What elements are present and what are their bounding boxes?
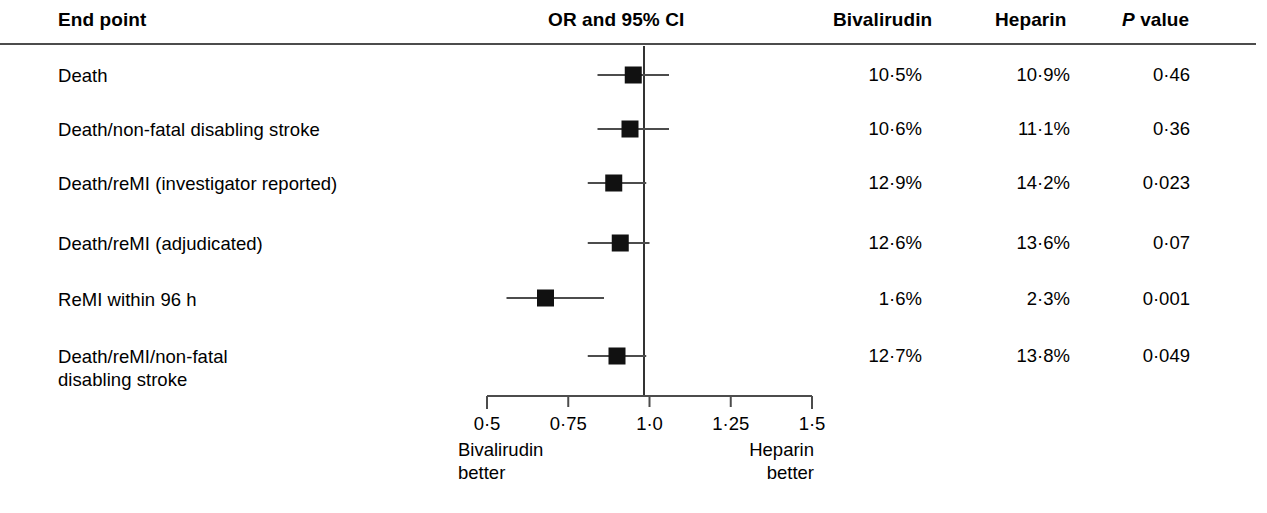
cell-bivalirudin-pct: 10·6% [800, 118, 922, 140]
cell-bivalirudin-pct: 10·5% [800, 64, 922, 86]
endpoint-label: Death/reMI/non-fatal disabling stroke [58, 345, 228, 391]
cell-heparin-pct: 14·2% [950, 172, 1070, 194]
axis-tick-label: 1·5 [777, 413, 847, 435]
endpoint-label: Death/reMI (investigator reported) [58, 172, 337, 195]
axis-tick-label: 1·0 [615, 413, 685, 435]
point-estimate-marker [537, 290, 554, 307]
cell-heparin-pct: 13·8% [950, 345, 1070, 367]
column-header-or-ci: OR and 95% CI [548, 9, 684, 31]
cell-heparin-pct: 10·9% [950, 64, 1070, 86]
cell-bivalirudin-pct: 1·6% [800, 288, 922, 310]
column-header-p-value: P value [1122, 9, 1189, 31]
column-header-bivalirudin: Bivalirudin [833, 9, 932, 31]
cell-bivalirudin-pct: 12·6% [800, 232, 922, 254]
point-estimate-marker [625, 67, 642, 84]
endpoint-label: Death [58, 64, 108, 87]
cell-p-value: 0·36 [1085, 118, 1190, 140]
p-value-italic-p: P [1122, 9, 1135, 30]
axis-annotation-heparin-better: Heparin better [690, 438, 814, 484]
endpoint-label: Death/non-fatal disabling stroke [58, 118, 320, 141]
cell-heparin-pct: 2·3% [950, 288, 1070, 310]
axis-tick-label: 1·25 [696, 413, 766, 435]
forest-plot-figure: End point OR and 95% CI Bivalirudin Hepa… [0, 0, 1267, 513]
cell-p-value: 0·001 [1085, 288, 1190, 310]
cell-p-value: 0·049 [1085, 345, 1190, 367]
axis-annotation-bivalirudin-better: Bivalirudin better [458, 438, 543, 484]
axis-tick-label: 0·75 [533, 413, 603, 435]
column-header-endpoint: End point [58, 9, 147, 31]
p-value-word: value [1135, 9, 1189, 30]
cell-p-value: 0·023 [1085, 172, 1190, 194]
cell-heparin-pct: 13·6% [950, 232, 1070, 254]
point-estimate-marker [609, 348, 626, 365]
column-header-heparin: Heparin [995, 9, 1066, 31]
point-estimate-marker [605, 175, 622, 192]
forest-plot-canvas [0, 0, 1267, 513]
cell-heparin-pct: 11·1% [950, 118, 1070, 140]
endpoint-label: ReMI within 96 h [58, 288, 197, 311]
point-estimate-marker [612, 235, 629, 252]
cell-bivalirudin-pct: 12·7% [800, 345, 922, 367]
cell-p-value: 0·07 [1085, 232, 1190, 254]
header-divider-rule [0, 43, 1256, 45]
cell-bivalirudin-pct: 12·9% [800, 172, 922, 194]
endpoint-label: Death/reMI (adjudicated) [58, 232, 263, 255]
axis-tick-label: 0·5 [452, 413, 522, 435]
point-estimate-marker [622, 121, 639, 138]
cell-p-value: 0·46 [1085, 64, 1190, 86]
